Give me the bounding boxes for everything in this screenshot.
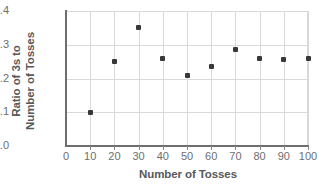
gridline-vertical bbox=[211, 11, 212, 146]
y-axis-tick-label: 0.0 bbox=[0, 139, 9, 151]
data-point bbox=[185, 73, 190, 78]
x-axis-tick-mark bbox=[235, 146, 236, 150]
data-point bbox=[281, 57, 286, 62]
data-point bbox=[209, 64, 214, 69]
x-axis-tick-label: 100 bbox=[291, 150, 322, 162]
y-axis-tick-label: 0.3 bbox=[0, 38, 9, 50]
x-axis-tick-mark bbox=[163, 146, 164, 150]
x-axis-tick-mark bbox=[284, 146, 285, 150]
x-axis-tick-mark bbox=[90, 146, 91, 150]
data-point bbox=[136, 25, 141, 30]
scatter-chart: Ratio of 3s to Number of Tosses 0.00.10.… bbox=[0, 0, 322, 190]
data-point bbox=[306, 56, 311, 61]
y-axis-line bbox=[65, 10, 67, 147]
x-axis-tick-mark bbox=[260, 146, 261, 150]
x-axis-tick-mark bbox=[114, 146, 115, 150]
x-axis-tick-mark bbox=[308, 146, 309, 150]
gridline-vertical bbox=[90, 11, 91, 146]
gridline-vertical bbox=[235, 11, 236, 146]
y-axis-tick-label: 0.2 bbox=[0, 72, 9, 84]
data-point bbox=[257, 56, 262, 61]
x-axis-tick-mark bbox=[211, 146, 212, 150]
y-axis-tick-label: 0.4 bbox=[0, 4, 9, 16]
gridline-vertical bbox=[260, 11, 261, 146]
gridline-vertical bbox=[284, 11, 285, 146]
y-axis-title-line-2: Number of Tosses bbox=[23, 32, 37, 130]
data-point bbox=[112, 59, 117, 64]
gridline-vertical bbox=[114, 11, 115, 146]
gridline-vertical bbox=[163, 11, 164, 146]
gridline-vertical bbox=[187, 11, 188, 146]
gridline-vertical bbox=[139, 11, 140, 146]
x-axis-tick-mark bbox=[139, 146, 140, 150]
x-axis-title: Number of Tosses bbox=[66, 168, 310, 180]
plot-area bbox=[66, 11, 308, 146]
y-axis-tick-label: 0.1 bbox=[0, 105, 9, 117]
y-axis-title-line-1: Ratio of 3s to bbox=[9, 45, 23, 116]
data-point bbox=[88, 110, 93, 115]
data-point bbox=[160, 56, 165, 61]
gridline-vertical bbox=[308, 11, 309, 146]
data-point bbox=[233, 47, 238, 52]
y-axis-title: Ratio of 3s to Number of Tosses bbox=[6, 7, 40, 155]
x-axis-tick-mark bbox=[187, 146, 188, 150]
